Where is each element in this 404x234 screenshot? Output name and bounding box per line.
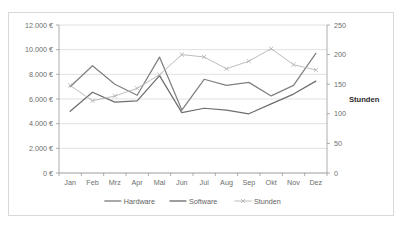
y-axis-right-tick-label: 250 — [334, 21, 346, 30]
y-axis-left-tick-label: 2.000 € — [29, 144, 53, 153]
x-axis-tick-label: Mrz — [109, 178, 121, 187]
y-axis-left-tick-label: 8.000 € — [29, 70, 53, 79]
x-axis-tick-label: Jun — [176, 178, 188, 187]
x-axis-tick-label: Aug — [220, 178, 233, 187]
legend-item-hardware[interactable]: Hardware — [104, 197, 155, 206]
legend-label: Software — [189, 197, 217, 206]
y-axis-left-tick-label: 6.000 € — [29, 95, 53, 104]
chart-frame: 0 €2.000 €4.000 €6.000 €8.000 €10.000 €1… — [8, 12, 394, 216]
y-axis-right-tick-label: 0 — [334, 169, 338, 178]
y-axis-right-tick-label: 100 — [334, 109, 346, 118]
legend-label: Stunden — [254, 197, 281, 206]
legend-label: Hardware — [124, 197, 155, 206]
chart-plot-area: 0 €2.000 €4.000 €6.000 €8.000 €10.000 €1… — [9, 13, 395, 217]
y-axis-right-tick-label: 150 — [334, 80, 346, 89]
x-axis-tick-label: Jan — [64, 178, 76, 187]
x-axis-tick-label: Feb — [86, 178, 98, 187]
x-axis-tick-label: Mai — [154, 178, 166, 187]
series-line-stunden — [70, 49, 316, 101]
y-axis-left-tick-label: 10.000 € — [25, 45, 53, 54]
series-line-hardware — [70, 53, 316, 110]
y-axis-left-tick-label: 4.000 € — [29, 119, 53, 128]
y-axis-right-tick-label: 50 — [334, 139, 342, 148]
x-axis-tick-label: Okt — [266, 178, 277, 187]
x-axis-tick-label: Dez — [309, 178, 322, 187]
x-axis-tick-label: Jul — [200, 178, 210, 187]
y-axis-left-tick-label: 12.000 € — [25, 21, 53, 30]
x-axis-tick-label: Nov — [287, 178, 300, 187]
line-chart: 0 €2.000 €4.000 €6.000 €8.000 €10.000 €1… — [9, 13, 395, 217]
x-axis-tick-label: Apr — [132, 178, 144, 187]
legend-item-software[interactable]: Software — [169, 197, 217, 206]
y-axis-right-title: Stunden — [349, 95, 380, 104]
x-axis-tick-label: Sep — [242, 178, 255, 187]
legend-item-stunden[interactable]: Stunden — [235, 197, 281, 206]
y-axis-left-tick-label: 0 € — [43, 169, 53, 178]
y-axis-right-tick-label: 200 — [334, 50, 346, 59]
